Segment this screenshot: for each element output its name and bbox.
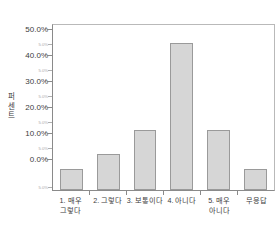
x-tick-label-6-line1: 무응답 bbox=[238, 196, 275, 206]
y-tick-label-minor-5: 5.0% bbox=[4, 147, 48, 151]
x-tick-mark-5 bbox=[237, 191, 238, 195]
y-tick-label-minor-45: 5.0% bbox=[4, 43, 48, 47]
bar-3[interactable] bbox=[134, 130, 157, 190]
bar-slot-5 bbox=[200, 25, 237, 190]
bar-slot-6 bbox=[237, 25, 274, 190]
x-tick-label-4: 4. 아니다 bbox=[163, 196, 200, 216]
y-tick-label-30: 30.0% bbox=[4, 78, 48, 86]
bar-1[interactable] bbox=[60, 169, 83, 190]
y-tick-label-0: 0.0% bbox=[4, 156, 48, 164]
x-tick-mark-2 bbox=[126, 191, 127, 195]
x-tick-label-3: 3. 보통이다 bbox=[126, 196, 163, 216]
x-tick-label-2-line1: 2. 그렇다 bbox=[89, 196, 126, 206]
x-tick-label-6: 무응답 bbox=[238, 196, 275, 216]
bar-2[interactable] bbox=[97, 154, 120, 190]
x-tick-label-1: 1. 매우 그렇다 bbox=[52, 196, 89, 216]
bar-slot-1 bbox=[53, 25, 90, 190]
y-tick-label-minor-neg5: 5.0% bbox=[4, 186, 48, 190]
x-tick-label-2: 2. 그렇다 bbox=[89, 196, 126, 216]
bar-slot-3 bbox=[127, 25, 164, 190]
bar-series bbox=[53, 25, 274, 190]
x-tick-label-1-line1: 1. 매우 bbox=[52, 196, 89, 206]
plot-area bbox=[52, 24, 275, 191]
y-tick-label-10: 10.0% bbox=[4, 130, 48, 138]
x-axis-labels: 1. 매우 그렇다 2. 그렇다 3. 보통이다 4. 아니다 5. 매우 아니… bbox=[52, 196, 275, 216]
bar-4[interactable] bbox=[170, 43, 193, 190]
bar-slot-2 bbox=[90, 25, 127, 190]
x-tick-label-3-line1: 3. 보통이다 bbox=[126, 196, 163, 206]
x-tick-label-4-line1: 4. 아니다 bbox=[163, 196, 200, 206]
x-tick-mark-4 bbox=[200, 191, 201, 195]
y-tick-label-minor-15: 5.0% bbox=[4, 121, 48, 125]
y-tick-label-minor-35: 5.0% bbox=[4, 69, 48, 73]
bar-6[interactable] bbox=[244, 169, 267, 190]
bar-chart-figure: 퍼 센 트 50.0% 5.0% 40.0% 5.0% 30.0% 5.0% 2… bbox=[0, 0, 279, 243]
x-tick-label-5: 5. 매우 아니다 bbox=[201, 196, 238, 216]
x-tick-label-5-line2: 아니다 bbox=[201, 206, 238, 216]
x-tick-mark-1 bbox=[89, 191, 90, 195]
y-tick-label-20: 20.0% bbox=[4, 104, 48, 112]
bar-5[interactable] bbox=[207, 130, 230, 190]
y-tick-label-40: 40.0% bbox=[4, 52, 48, 60]
y-tick-label-minor-25: 5.0% bbox=[4, 95, 48, 99]
y-axis-title-char-3: 트 bbox=[4, 111, 18, 121]
bar-slot-4 bbox=[163, 25, 200, 190]
y-tick-label-50: 50.0% bbox=[4, 26, 48, 34]
x-tick-label-1-line2: 그렇다 bbox=[52, 206, 89, 216]
x-tick-mark-3 bbox=[163, 191, 164, 195]
x-tick-label-5-line1: 5. 매우 bbox=[201, 196, 238, 206]
